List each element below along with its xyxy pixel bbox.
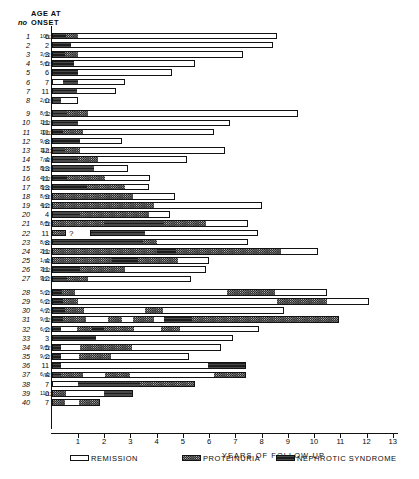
segment-proteinuria	[66, 33, 78, 40]
timeline-track	[52, 193, 175, 200]
timeline-track	[52, 362, 246, 369]
timeline-track	[52, 69, 173, 76]
segment-nephrotic	[104, 390, 133, 397]
segment-proteinuria	[79, 353, 111, 360]
segment-proteinuria	[227, 289, 274, 296]
unknown-interval-marker: ?	[69, 229, 73, 238]
row-number: 24	[16, 247, 30, 256]
segment-proteinuria	[80, 266, 125, 273]
x-axis-tick-label: 2	[102, 438, 106, 446]
row-number: 26	[16, 265, 30, 274]
row-number: 22	[16, 229, 30, 238]
segment-remission	[52, 79, 64, 86]
row-number: 1	[16, 32, 30, 41]
x-axis-tick-label: 7	[233, 438, 237, 446]
segment-remission	[157, 239, 249, 246]
row-number: 37	[16, 370, 30, 379]
timeline-track	[52, 184, 149, 191]
chart-legend: REMISSIONPROTEINURIANEPHROTIC SYNDROME	[0, 452, 419, 468]
segment-remission	[78, 33, 278, 40]
segment-nephrotic	[164, 316, 192, 323]
segment-proteinuria	[52, 248, 157, 255]
segment-nephrotic	[52, 211, 81, 218]
segment-remission	[61, 344, 81, 351]
segment-remission	[149, 211, 170, 218]
segment-proteinuria	[67, 276, 88, 283]
segment-nephrotic	[52, 42, 72, 49]
legend-swatch-remission	[70, 455, 89, 462]
segment-proteinuria	[80, 211, 148, 218]
timeline-track	[52, 372, 246, 379]
legend-swatch-proteinuria	[182, 455, 201, 462]
segment-proteinuria	[65, 147, 81, 154]
segment-proteinuria	[67, 110, 88, 117]
row-number: 20	[16, 210, 30, 219]
segment-remission	[80, 138, 122, 145]
row-number: 38	[16, 380, 30, 389]
segment-remission	[80, 147, 224, 154]
segment-remission	[125, 266, 206, 273]
column-header-no: no	[18, 19, 27, 27]
segment-nephrotic	[157, 248, 177, 255]
timeline-track	[52, 381, 195, 388]
segment-remission	[84, 307, 144, 314]
segment-proteinuria	[87, 184, 125, 191]
segment-remission	[134, 326, 160, 333]
row-number: 32	[16, 325, 30, 334]
segment-remission	[88, 110, 298, 117]
segment-proteinuria	[61, 372, 83, 379]
x-axis-tick-label: 6	[207, 438, 211, 446]
segment-proteinuria	[52, 220, 105, 227]
x-axis-tick-label: 4	[154, 438, 158, 446]
x-axis-tick-label: 11	[336, 438, 344, 446]
age-at-onset-months: 2/12	[40, 96, 51, 106]
row-number: 17	[16, 183, 30, 192]
row-number: 9	[16, 109, 30, 118]
segment-proteinuria	[108, 316, 122, 323]
segment-remission	[83, 129, 214, 136]
segment-remission	[98, 156, 187, 163]
segment-remission	[275, 289, 328, 296]
segment-nephrotic	[52, 316, 64, 323]
segment-proteinuria	[65, 51, 78, 58]
segment-proteinuria	[176, 248, 281, 255]
segment-proteinuria	[138, 257, 177, 264]
row-number: 13	[16, 146, 30, 155]
segment-remission	[77, 88, 116, 95]
segment-proteinuria	[52, 399, 65, 406]
segment-proteinuria	[52, 193, 133, 200]
row-number: 30	[16, 306, 30, 315]
row-number: 5	[16, 68, 30, 77]
x-axis-line	[51, 433, 398, 434]
segment-proteinuria	[77, 326, 93, 333]
segment-proteinuria	[145, 307, 163, 314]
age-at-onset-years: 11	[33, 229, 49, 238]
timeline-track	[52, 33, 278, 40]
x-axis-tick-label: 9	[286, 438, 290, 446]
row-number: 7	[16, 87, 30, 96]
segment-remission	[178, 257, 210, 264]
row-number: 3	[16, 50, 30, 59]
segment-remission	[145, 230, 258, 237]
timeline-track	[52, 42, 274, 49]
row-number: 23	[16, 238, 30, 247]
segment-proteinuria	[63, 316, 85, 323]
timeline-track	[52, 129, 215, 136]
segment-remission	[75, 289, 227, 296]
segment-nephrotic	[52, 353, 61, 360]
row-number: 12	[16, 137, 30, 146]
segment-proteinuria	[67, 175, 105, 182]
segment-nephrotic	[63, 79, 77, 86]
segment-remission	[61, 326, 77, 333]
timeline-track	[52, 248, 318, 255]
segment-remission	[180, 326, 259, 333]
x-axis-tick-label: 8	[259, 438, 263, 446]
segment-proteinuria	[62, 289, 75, 296]
segment-remission	[122, 316, 133, 323]
segment-remission	[154, 202, 262, 209]
timeline-track	[52, 399, 101, 406]
timeline-track	[52, 266, 207, 273]
segment-nephrotic	[52, 326, 61, 333]
segment-nephrotic	[52, 276, 68, 283]
timeline-track	[52, 326, 259, 333]
